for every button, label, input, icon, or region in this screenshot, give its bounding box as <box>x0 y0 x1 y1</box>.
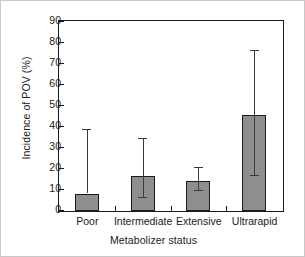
chart-figure: Incidence of POV (%) Metabolizer status … <box>0 0 305 257</box>
error-bar-cap-lower <box>138 197 147 198</box>
error-bar-line <box>87 129 88 193</box>
bar <box>75 194 99 211</box>
error-bar-line <box>254 50 255 175</box>
error-bar-line <box>198 167 199 190</box>
error-bar-line <box>143 138 144 198</box>
error-bar-cap-lower <box>250 175 259 176</box>
error-bar-cap-upper <box>250 50 259 51</box>
x-axis-title: Metabolizer status <box>1 234 305 246</box>
y-tick-label: 70 <box>33 57 61 68</box>
error-bar-cap-upper <box>138 138 147 139</box>
y-tick-label: 60 <box>33 78 61 89</box>
y-tick-label: 20 <box>33 162 61 173</box>
x-tick <box>226 206 227 211</box>
y-tick-label: 40 <box>33 120 61 131</box>
y-tick-label: 10 <box>33 183 61 194</box>
y-tick-label: 90 <box>33 15 61 26</box>
plot-area: 0102030405060708090 <box>58 20 284 212</box>
y-tick-label: 0 <box>33 204 61 215</box>
error-bar-cap-upper <box>82 129 91 130</box>
x-tick <box>115 206 116 211</box>
error-bar-cap-lower <box>194 190 203 191</box>
y-tick-label: 80 <box>33 36 61 47</box>
x-tick <box>171 206 172 211</box>
error-bar-cap-upper <box>194 167 203 168</box>
y-axis-title: Incidence of POV (%) <box>20 28 32 188</box>
x-tick-label: Ultrarapid <box>215 215 295 227</box>
y-tick-label: 50 <box>33 99 61 110</box>
y-tick-label: 30 <box>33 141 61 152</box>
